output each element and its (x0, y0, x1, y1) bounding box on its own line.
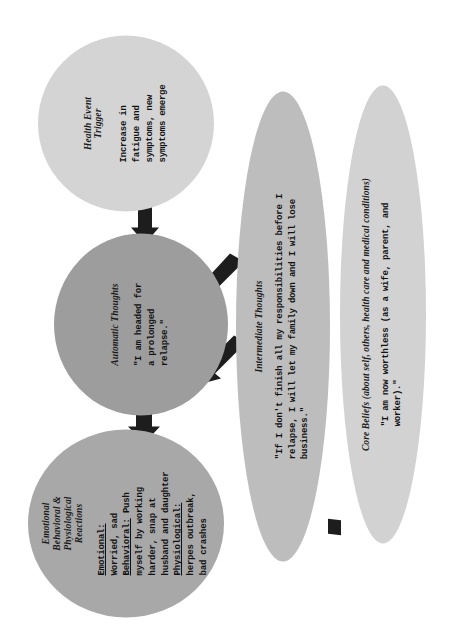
node-health-event-trigger[interactable]: Health Event Trigger Increase in fatigue… (38, 35, 214, 211)
node-health-event-trigger-title: Health Event Trigger (83, 96, 105, 149)
node-intermediate-thoughts[interactable]: Intermediate Thoughts "If I don't finish… (236, 91, 330, 561)
connector-core-to-intermediate (328, 518, 341, 534)
node-core-beliefs[interactable]: Core Beliefs (about self, others, health… (340, 85, 426, 543)
diagram-canvas: Emotional Behavioral & Physiological Rea… (0, 0, 454, 631)
node-automatic-thoughts-body: "I am headed for a prolonged relapse." (133, 282, 171, 365)
reactions-emotional-label: Emotional: (97, 523, 107, 575)
node-health-event-trigger-body: Increase in fatigue and symptoms, new sy… (118, 84, 169, 162)
reactions-behavioral-label: Behavioral: (122, 518, 132, 575)
node-intermediate-thoughts-title: Intermediate Thoughts (254, 280, 265, 372)
node-automatic-thoughts[interactable]: Automatic Thoughts "I am headed for a pr… (54, 233, 228, 415)
node-intermediate-thoughts-body: "If I don't finish all my responsibiliti… (274, 193, 312, 458)
node-core-beliefs-title: Core Beliefs (about self, others, health… (361, 177, 372, 450)
node-emotional-behavioral-physiological-reactions[interactable]: Emotional Behavioral & Physiological Rea… (28, 429, 224, 617)
reactions-physiological-value: herpes outbreak, bad crashes (185, 471, 211, 575)
reactions-physiological-label: Physiological: (173, 502, 183, 575)
node-automatic-thoughts-title: Automatic Thoughts (110, 283, 121, 365)
reactions-emotional-value: Worried, sad (109, 471, 122, 575)
node-core-beliefs-body: "I am now worthless (as a wife, parent, … (380, 202, 406, 426)
node-reactions-title: Emotional Behavioral & Physiological Rea… (41, 496, 85, 550)
node-reactions-body: Emotional:Worried, sadBehavioral: Push m… (96, 471, 211, 575)
